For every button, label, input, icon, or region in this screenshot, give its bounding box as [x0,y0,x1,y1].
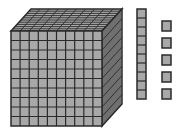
ten-rod [137,9,146,99]
unit-cubes [162,21,171,99]
thousand-cube [11,9,122,126]
base-ten-blocks-diagram [0,0,186,134]
